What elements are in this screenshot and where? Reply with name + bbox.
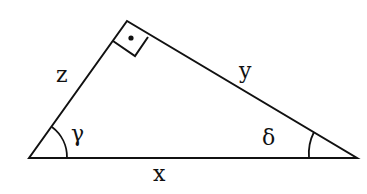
- right-angle-dot: [128, 35, 133, 40]
- side-label-z: z: [56, 62, 68, 87]
- angle-label-gamma: γ: [71, 121, 84, 146]
- side-label-x: x: [153, 161, 166, 186]
- gamma-angle-arc: [52, 127, 67, 158]
- delta-angle-arc: [309, 132, 314, 158]
- triangle-diagram: z y x γ δ: [0, 0, 367, 194]
- side-label-y: y: [238, 58, 252, 83]
- angle-label-delta: δ: [262, 125, 275, 150]
